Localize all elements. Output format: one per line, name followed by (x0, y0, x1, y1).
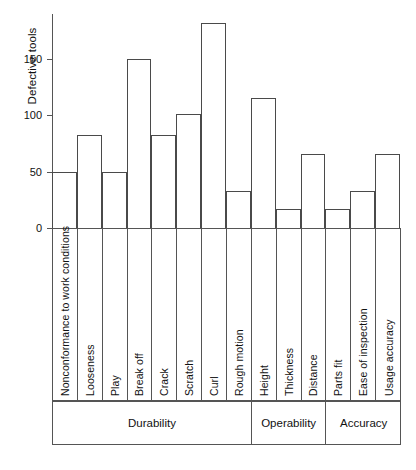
category-label: Break off (133, 353, 145, 396)
category-cell: Looseness (78, 228, 103, 400)
category-label: Curl (208, 376, 220, 396)
category-cell: Rough motion (227, 228, 252, 400)
plot-area (52, 14, 400, 228)
category-label: Ease of inspection (357, 308, 369, 396)
group-label: Durability (53, 402, 252, 444)
bar (77, 135, 102, 228)
category-cell: Usage accuracy (376, 228, 401, 400)
bar (201, 23, 226, 228)
y-axis-title: Defective tools (26, 0, 38, 146)
defective-tools-bar-chart: Defective tools 050100150 Nonconformance… (0, 0, 416, 470)
bar (375, 154, 400, 228)
category-cell: Thickness (277, 228, 302, 400)
category-label: Looseness (84, 344, 96, 396)
category-label: Usage accuracy (383, 319, 395, 396)
category-cell: Ease of inspection (351, 228, 376, 400)
bar (52, 172, 77, 228)
category-label: Play (109, 375, 121, 396)
group-label: Operability (252, 402, 327, 444)
category-label: Scratch (183, 360, 195, 396)
y-tick-label: 0 (8, 222, 42, 234)
category-label: Height (258, 365, 270, 396)
category-cell: Scratch (177, 228, 202, 400)
bar (350, 191, 375, 228)
category-cell: Height (252, 228, 277, 400)
category-cell: Parts fit (326, 228, 351, 400)
category-label: Rough motion (233, 329, 245, 396)
y-tick-label: 50 (8, 166, 42, 178)
y-tick-label: 150 (8, 53, 42, 65)
category-label-grid: Nonconformance to work conditionsLoosene… (52, 228, 401, 401)
bar (102, 172, 127, 228)
category-cell: Play (103, 228, 128, 400)
category-label: Distance (307, 354, 319, 396)
category-cell: Nonconformance to work conditions (53, 228, 78, 400)
group-strip: DurabilityOperabilityAccuracy (52, 401, 401, 445)
category-label: Thickness (283, 348, 295, 396)
category-label: Crack (158, 368, 170, 396)
bar (251, 98, 276, 228)
category-cell: Crack (152, 228, 177, 400)
bar (226, 191, 251, 228)
bar (301, 154, 326, 228)
category-label: Parts fit (332, 360, 344, 397)
y-tick-label: 100 (8, 109, 42, 121)
category-cell: Curl (202, 228, 227, 400)
category-cell: Distance (302, 228, 327, 400)
bar (276, 209, 301, 228)
bar (127, 59, 152, 228)
category-label: Nonconformance to work conditions (59, 226, 71, 396)
bar (176, 114, 201, 228)
bar (151, 135, 176, 228)
group-label: Accuracy (326, 402, 401, 444)
category-cell: Break off (128, 228, 153, 400)
bar (325, 209, 350, 228)
